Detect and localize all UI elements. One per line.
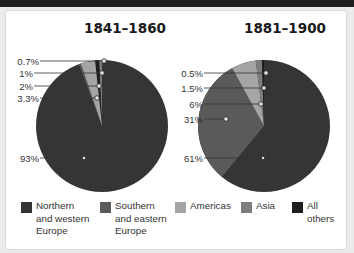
legend: Northern and western Europe Southern and… bbox=[20, 200, 350, 248]
pie-1841-1860: 0.7% 1% 2% 3.3% 93% bbox=[17, 56, 168, 193]
legend-item-americas: Americas bbox=[175, 200, 231, 213]
legend-item-asia: Asia bbox=[241, 200, 275, 213]
legend-label: Asia bbox=[256, 200, 275, 213]
label-1.5: 1.5% bbox=[181, 83, 203, 94]
label-1: 1% bbox=[19, 68, 33, 79]
pie-1881-1900: 0.5% 1.5% 6% 31% 61% bbox=[181, 60, 330, 192]
legend-label: Northern and western Europe bbox=[36, 200, 89, 238]
label-31: 31% bbox=[184, 114, 204, 125]
legend-item-southern-eastern-europe: Southern and eastern Europe bbox=[100, 200, 167, 238]
legend-swatch bbox=[175, 202, 186, 213]
legend-item-all-others: All others bbox=[292, 200, 334, 225]
legend-label: Americas bbox=[190, 200, 231, 213]
legend-item-northern-western-europe: Northern and western Europe bbox=[21, 200, 89, 238]
legend-swatch bbox=[241, 202, 252, 213]
legend-swatch bbox=[100, 202, 111, 213]
label-2: 2% bbox=[19, 81, 33, 92]
label-93: 93% bbox=[20, 153, 40, 164]
label-0.7: 0.7% bbox=[17, 56, 39, 67]
legend-swatch bbox=[292, 202, 303, 213]
label-3.3: 3.3% bbox=[17, 93, 39, 104]
legend-swatch bbox=[21, 202, 32, 213]
label-0.5: 0.5% bbox=[181, 68, 203, 79]
legend-label: Southern and eastern Europe bbox=[115, 200, 167, 238]
label-6: 6% bbox=[189, 99, 203, 110]
legend-label: All others bbox=[307, 200, 334, 225]
label-61: 61% bbox=[184, 153, 204, 164]
